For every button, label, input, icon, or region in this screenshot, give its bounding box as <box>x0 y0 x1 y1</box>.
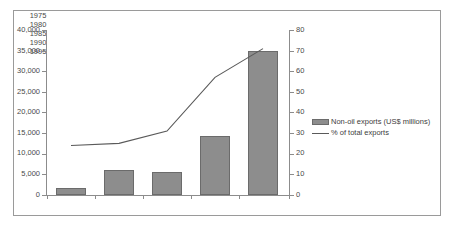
bar-1985 <box>152 172 182 195</box>
left-axis-tick-label: 40,000 <box>14 26 40 34</box>
left-axis-tick-label: 25,000 <box>14 88 40 96</box>
right-axis-tick <box>290 154 294 155</box>
legend-label-non-oil-exports: Non-oil exports (US$ millions) <box>331 117 430 126</box>
x-axis-tick <box>191 196 192 199</box>
bar-1990 <box>200 136 230 195</box>
left-axis-tick-label: 20,000 <box>14 108 40 116</box>
right-axis-tick <box>290 92 294 93</box>
bar-1975 <box>56 188 86 195</box>
legend-entry-bar: Non-oil exports (US$ millions) <box>312 116 440 127</box>
right-axis-tick <box>290 195 294 196</box>
left-axis-tick-label: 5,000 <box>14 170 40 178</box>
left-axis-tick-label: 10,000 <box>14 149 40 157</box>
x-axis-tick <box>47 196 48 199</box>
line-swatch-icon <box>312 130 329 136</box>
right-axis-tick-label: 70 <box>296 47 304 55</box>
right-axis-tick-label: 10 <box>296 170 304 178</box>
left-axis-line <box>46 30 47 196</box>
right-axis-tick-label: 60 <box>296 67 304 75</box>
right-axis-tick <box>290 51 294 52</box>
right-axis-tick-label: 30 <box>296 129 304 137</box>
x-axis-tick <box>289 196 290 199</box>
right-axis-tick-label: 80 <box>296 26 304 34</box>
x-axis-baseline <box>47 195 290 196</box>
bar-1995 <box>248 51 278 195</box>
right-axis-tick-label: 20 <box>296 149 304 157</box>
right-axis-tick-label: 40 <box>296 108 304 116</box>
left-axis-tick-label: 35,000 <box>14 47 40 55</box>
legend-label-percent-total-exports: % of total exports <box>331 128 389 137</box>
right-axis-tick <box>290 112 294 113</box>
x-axis-label-1975: 1975 <box>14 11 62 20</box>
right-axis-tick-label: 50 <box>296 88 304 96</box>
bar-1980 <box>104 170 134 195</box>
right-axis-line <box>289 30 290 196</box>
legend-entry-line: % of total exports <box>312 127 440 138</box>
right-axis-tick <box>290 133 294 134</box>
chart-legend: Non-oil exports (US$ millions) % of tota… <box>312 116 440 138</box>
x-axis-tick <box>95 196 96 199</box>
right-axis-tick <box>290 30 294 31</box>
left-axis-tick-label: 30,000 <box>14 67 40 75</box>
bar-swatch-icon <box>312 119 329 125</box>
left-axis-tick-label: 0 <box>14 191 40 199</box>
right-axis-tick <box>290 71 294 72</box>
left-axis-tick-label: 15,000 <box>14 129 40 137</box>
right-axis-tick-label: 0 <box>296 191 300 199</box>
x-axis-tick <box>239 196 240 199</box>
x-axis-tick <box>143 196 144 199</box>
right-axis-tick <box>290 174 294 175</box>
chart-frame: 40,000 35,000 30,000 25,000 20,000 15,00… <box>13 10 441 216</box>
